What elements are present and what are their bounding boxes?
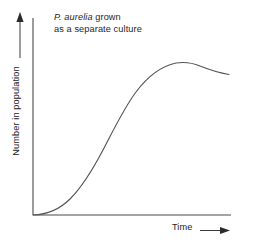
population-growth-figure: P. aurelia grown as a separate culture N…: [0, 0, 257, 243]
y-axis-label: Number in population: [11, 66, 21, 155]
up-arrow-icon: [16, 12, 23, 22]
annotation-line2: as a separate culture: [54, 24, 142, 34]
right-arrow-icon: [220, 227, 230, 234]
y-axis-label-wrap: Number in population: [8, 56, 24, 166]
x-axis-label-arrow-group: [198, 224, 232, 238]
x-axis-label: Time: [172, 222, 192, 232]
growth-curve: [33, 62, 229, 215]
plot-area: [0, 0, 257, 243]
annotation-text: P. aurelia grown as a separate culture: [54, 11, 174, 36]
species-name: P. aurelia: [54, 12, 93, 22]
annotation-line1-rest: grown: [93, 12, 121, 22]
